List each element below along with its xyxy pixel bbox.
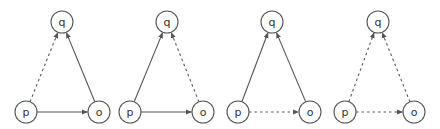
node-label: q [269, 16, 276, 29]
node-p: p [15, 101, 37, 123]
node-label: p [23, 106, 30, 119]
triangle-diagram-1: poq [15, 11, 110, 123]
node-p: p [119, 101, 141, 123]
node-o: o [88, 101, 110, 123]
diagrams-layer: poqpoqpoqpoq [15, 11, 425, 123]
node-label: o [96, 106, 103, 119]
edge-o-to-q-solid [66, 33, 94, 102]
node-label: p [127, 106, 134, 119]
node-label: o [200, 106, 207, 119]
node-p: p [227, 101, 249, 123]
node-q: q [156, 11, 178, 33]
node-o: o [403, 101, 425, 123]
node-label: p [235, 106, 242, 119]
node-label: o [307, 106, 314, 119]
node-label: o [411, 106, 418, 119]
edge-p-to-q-solid [134, 33, 162, 102]
edge-o-to-q-dashed [171, 33, 199, 102]
edge-o-to-q-solid [276, 33, 305, 102]
node-p: p [334, 101, 356, 123]
edge-o-to-q-dashed [382, 33, 410, 102]
triangle-diagram-3: poq [227, 11, 321, 123]
edge-p-to-q-dashed [349, 33, 374, 102]
node-label: p [342, 106, 349, 119]
edge-p-to-q-solid [242, 33, 268, 102]
node-label: q [164, 16, 171, 29]
node-q: q [51, 11, 73, 33]
diagram-canvas: poqpoqpoqpoq [0, 0, 440, 129]
node-label: q [375, 16, 382, 29]
node-o: o [299, 101, 321, 123]
triangle-diagram-2: poq [119, 11, 214, 123]
node-o: o [192, 101, 214, 123]
node-q: q [261, 11, 283, 33]
node-q: q [367, 11, 389, 33]
node-label: q [59, 16, 66, 29]
triangle-diagram-4: poq [334, 11, 425, 123]
edge-p-to-q-dashed [30, 33, 58, 102]
